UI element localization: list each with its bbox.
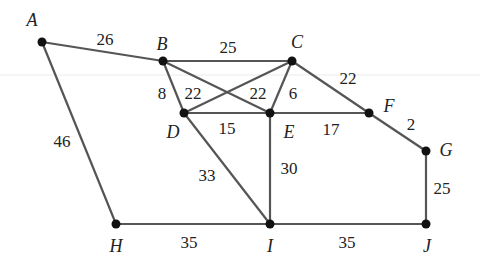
edge-weight-F-G: 2 — [407, 116, 416, 133]
edge-weight-C-D: 22 — [250, 85, 267, 102]
graph-edges-layer — [0, 0, 480, 272]
edge-weight-H-I: 35 — [181, 234, 198, 251]
edge-weight-B-C: 25 — [220, 39, 237, 56]
node-C — [288, 57, 297, 66]
node-E — [266, 109, 275, 118]
node-label-I: I — [267, 237, 273, 255]
edge-weight-B-D: 8 — [158, 85, 167, 102]
edge-weight-I-J: 35 — [339, 234, 356, 251]
edge-weight-E-I: 30 — [281, 160, 298, 177]
edge-weight-B-E: 22 — [185, 85, 202, 102]
edge-weight-D-I: 33 — [199, 167, 216, 184]
node-label-B: B — [157, 35, 168, 53]
node-I — [266, 220, 275, 229]
node-label-A: A — [27, 11, 38, 29]
edge-C-F — [292, 61, 369, 113]
node-D — [180, 109, 189, 118]
node-J — [422, 220, 431, 229]
edge-weight-C-E: 6 — [289, 85, 298, 102]
node-label-H: H — [110, 237, 123, 255]
node-label-J: J — [423, 237, 431, 255]
node-label-E: E — [284, 123, 295, 141]
graph-diagram: 26462582222622151723330253535ABCDEFGHIJ — [0, 0, 480, 272]
node-A — [38, 38, 47, 47]
node-label-D: D — [167, 123, 180, 141]
node-label-C: C — [291, 33, 303, 51]
edge-weight-E-F: 17 — [323, 121, 340, 138]
edge-F-G — [369, 113, 426, 151]
edge-weight-A-H: 46 — [54, 133, 71, 150]
edge-weight-A-B: 26 — [97, 31, 114, 48]
edge-weight-C-F: 22 — [340, 70, 357, 87]
node-G — [422, 147, 431, 156]
node-B — [159, 57, 168, 66]
node-label-F: F — [384, 97, 395, 115]
node-F — [365, 109, 374, 118]
edge-weight-G-J: 25 — [434, 180, 451, 197]
node-H — [112, 220, 121, 229]
node-label-G: G — [440, 141, 453, 159]
edge-weight-D-E: 15 — [219, 120, 236, 137]
